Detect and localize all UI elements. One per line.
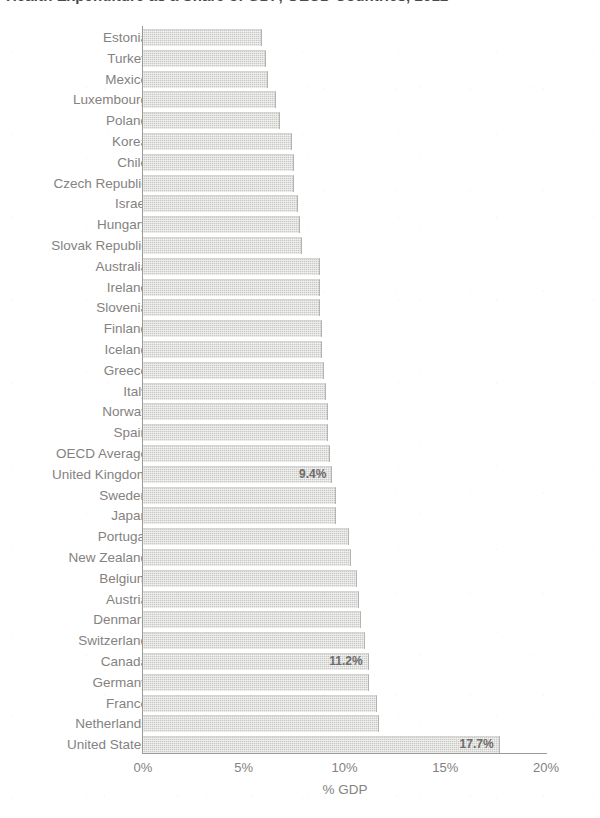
bar [143, 175, 294, 192]
bar-row: Korea [0, 131, 600, 152]
bar-category-label: Canada [101, 651, 148, 672]
bar [143, 403, 328, 420]
bar-row: Portugal [0, 526, 600, 547]
x-axis-tick-label: 20% [533, 760, 559, 775]
bar [143, 279, 320, 296]
bar [143, 29, 262, 46]
bar-row: Sweden [0, 485, 600, 506]
bar-row: Italy [0, 381, 600, 402]
y-axis-line [142, 26, 143, 754]
bar [143, 299, 320, 316]
bar [143, 695, 377, 712]
bar-category-label: Sweden [99, 485, 148, 506]
bar-row: Luxembourg [0, 89, 600, 110]
x-axis-tick-label: 10% [331, 760, 357, 775]
bar-row: Switzerland [0, 630, 600, 651]
bar-value-label: 9.4% [143, 466, 332, 483]
bar-category-label: Netherlands [75, 713, 148, 734]
bar-category-label: Switzerland [78, 630, 148, 651]
bar [143, 71, 268, 88]
bar [143, 237, 302, 254]
bar-row: Slovak Republic [0, 235, 600, 256]
bar-category-label: Portugal [98, 526, 148, 547]
bar-row: Spain [0, 422, 600, 443]
bar [143, 632, 365, 649]
bar-category-label: Czech Republic [53, 173, 148, 194]
x-axis-label: % GDP [322, 782, 367, 797]
bar [143, 591, 359, 608]
bar [143, 362, 324, 379]
bar-category-label: Luxembourg [73, 89, 148, 110]
bar-row: Germany [0, 672, 600, 693]
bar-category-label: United States [67, 734, 148, 755]
bar-row: Belgium [0, 568, 600, 589]
bar [143, 715, 379, 732]
bar-row: Greece [0, 360, 600, 381]
bar [143, 487, 336, 504]
bar [143, 674, 369, 691]
bar-row: New Zealand [0, 547, 600, 568]
bar-value-label: 11.2% [143, 653, 369, 670]
bar-chart: EstoniaTurkeyMexicoLuxembourgPolandKorea… [0, 0, 600, 818]
bar-category-label: Hungary [97, 214, 148, 235]
bar-row: France [0, 693, 600, 714]
bar-category-label: OECD Average [56, 443, 148, 464]
bar-row: Turkey [0, 48, 600, 69]
bar-row: Netherlands [0, 713, 600, 734]
bar [143, 320, 322, 337]
bar-row: Japan [0, 505, 600, 526]
x-axis-line [143, 753, 547, 754]
bar [143, 50, 266, 67]
bar-row: Australia [0, 256, 600, 277]
bar-row: Finland [0, 318, 600, 339]
bar [143, 424, 328, 441]
bar-category-label: Germany [92, 672, 148, 693]
bar-row: Mexico [0, 69, 600, 90]
bar-category-label: Slovenia [96, 297, 148, 318]
bar-category-label: Australia [95, 256, 148, 277]
x-axis-tick-label: 5% [234, 760, 253, 775]
bar [143, 549, 351, 566]
bar [143, 112, 280, 129]
x-axis-tick-label: 0% [134, 760, 153, 775]
bar-row: Denmark [0, 609, 600, 630]
bar-category-label: Belgium [99, 568, 148, 589]
bar [143, 570, 357, 587]
bar [143, 383, 326, 400]
bar [143, 91, 276, 108]
bar-row: United Kingdom9.4% [0, 464, 600, 485]
bar-row: Slovenia [0, 297, 600, 318]
bar-row: Ireland [0, 277, 600, 298]
bar-row: Iceland [0, 339, 600, 360]
bar [143, 195, 298, 212]
bar [143, 341, 322, 358]
bar [143, 611, 361, 628]
bar-row: Poland [0, 110, 600, 131]
x-axis-tick-label: 15% [432, 760, 458, 775]
bar-row: Chile [0, 152, 600, 173]
bar [143, 445, 330, 462]
bar-value-label: 17.7% [143, 736, 500, 753]
bar-category-label: Slovak Republic [51, 235, 148, 256]
bar-category-label: United Kingdom [52, 464, 148, 485]
bar [143, 133, 292, 150]
bar [143, 154, 294, 171]
bar-row: Canada11.2% [0, 651, 600, 672]
bar-category-label: New Zealand [68, 547, 148, 568]
bar-row: Israel [0, 193, 600, 214]
bar-row: Hungary [0, 214, 600, 235]
bar-row: Austria [0, 589, 600, 610]
bar-category-label: Denmark [93, 609, 148, 630]
bar-row: OECD Average [0, 443, 600, 464]
bar-row: Estonia [0, 27, 600, 48]
bar-row: Czech Republic [0, 173, 600, 194]
bar [143, 258, 320, 275]
bar-row: Norway [0, 401, 600, 422]
bar [143, 528, 349, 545]
bar [143, 216, 300, 233]
bar [143, 507, 336, 524]
